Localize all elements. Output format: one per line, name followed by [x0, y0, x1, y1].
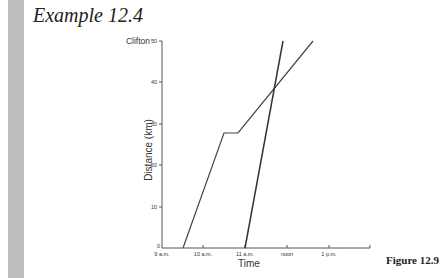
clifton-label: Clifton — [126, 36, 150, 46]
svg-text:10: 10 — [151, 204, 157, 210]
svg-text:40: 40 — [151, 79, 157, 85]
y-tick: 50 — [151, 38, 157, 44]
journey-1-line — [183, 41, 313, 248]
svg-text:10 a.m.: 10 a.m. — [194, 251, 213, 257]
svg-text:0: 0 — [157, 243, 160, 249]
x-axis-label: Time — [238, 258, 260, 269]
y-axis-label: Distance (km) — [143, 119, 154, 181]
x-tick: 9 a.m. — [154, 251, 170, 257]
svg-text:1 p.m.: 1 p.m. — [321, 251, 337, 257]
distance-time-graph: 50 40 30 20 10 0 9 a.m. 10 a.m. 11 a.m. … — [0, 0, 447, 278]
svg-text:11 a.m.: 11 a.m. — [236, 251, 254, 257]
journey-2-line — [245, 41, 283, 248]
svg-text:noon: noon — [281, 251, 293, 257]
